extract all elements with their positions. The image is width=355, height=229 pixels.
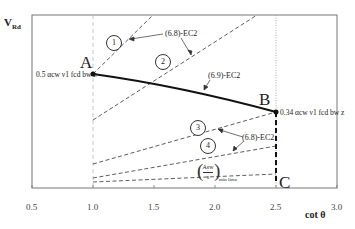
min-reinforcement-label: ( Asw s ) min lima	[197, 162, 237, 182]
line-min	[93, 174, 276, 182]
tick-1-5: 1.5	[148, 203, 159, 212]
point-b	[274, 110, 279, 115]
circle-1: 1	[106, 35, 122, 51]
min-frac-bar	[203, 172, 213, 173]
tick-1-0: 1.0	[87, 203, 98, 212]
min-denominator: s	[202, 174, 214, 180]
tick-2-0: 2.0	[209, 203, 220, 212]
curve-6-9	[93, 74, 276, 112]
y-axis-label: VRd	[4, 17, 21, 31]
tick-0-5: 0.5	[26, 203, 37, 212]
min-subscript: min lima	[219, 177, 237, 182]
point-b-label: B	[259, 91, 270, 108]
b-value-label: 0.34 αcw ν1 fcd bw z	[280, 109, 344, 117]
eq-6-8-top: (6.8)-EC2	[165, 30, 197, 38]
eq-6-8-bottom: (6.8)-EC2	[242, 134, 274, 142]
tick-2-5: 2.5	[270, 203, 281, 212]
x-axis-label: cot θ	[305, 210, 326, 220]
eq-6-9: (6.9)-EC2	[208, 72, 240, 80]
circle-3: 3	[190, 120, 206, 136]
a-value-label: 0.5 αcw ν1 fcd bw z	[36, 71, 97, 79]
min-numerator: Asw	[202, 164, 214, 170]
tick-3-0: 3.0	[331, 203, 342, 212]
line-1	[93, 15, 153, 74]
circle-4: 4	[200, 138, 216, 154]
point-c-label: C	[279, 174, 290, 191]
point-a-label: A	[80, 54, 92, 71]
circle-2: 2	[155, 54, 171, 70]
line-4	[93, 146, 276, 178]
